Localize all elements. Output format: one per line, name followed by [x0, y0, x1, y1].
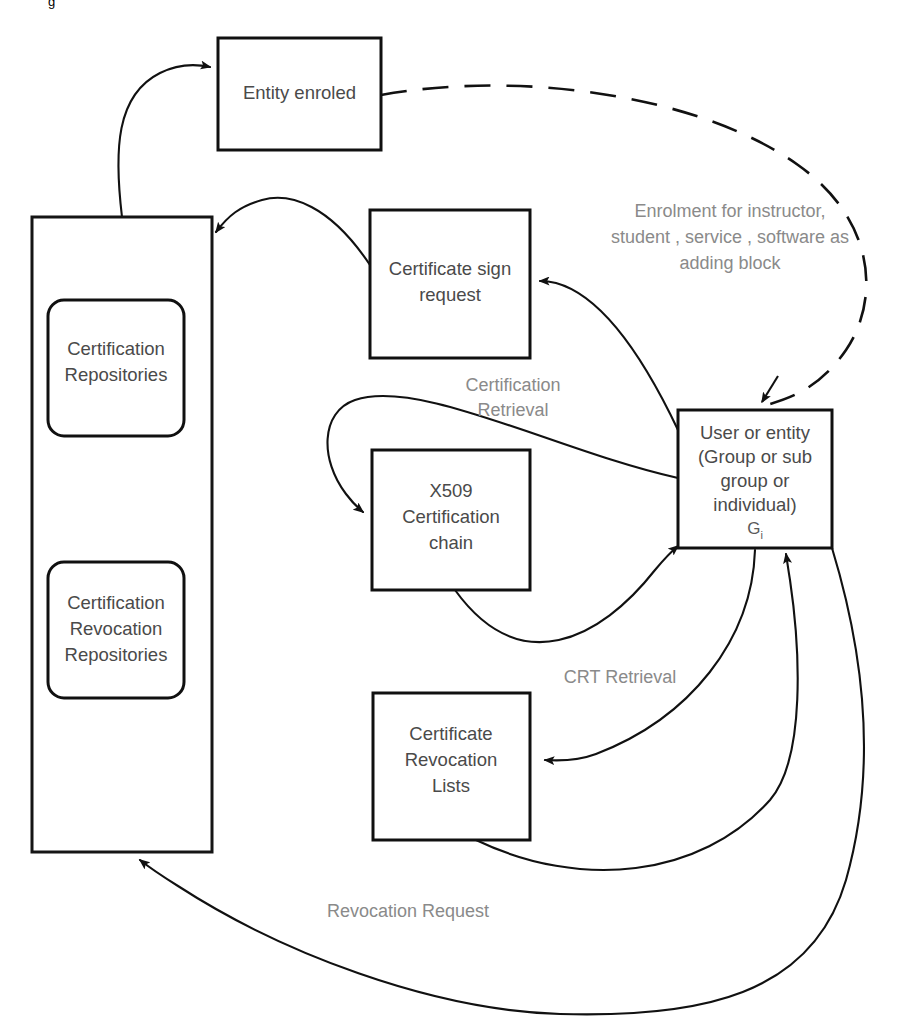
node-certification-revocation-repositories[interactable]: Certification Revocation Repositories	[48, 562, 184, 698]
edge-label-revocation-request-line1: Revocation Request	[327, 901, 489, 921]
edge-label-crt-retrieval-line1: CRT Retrieval	[564, 667, 676, 687]
edge-label-enrolment-line3: adding block	[679, 253, 781, 273]
edge-label-enrolment: Enrolment for instructor, student , serv…	[611, 201, 849, 273]
node-certificate-sign-request-line1: Certificate sign	[389, 258, 511, 279]
node-x509-certification-chain-line1: X509	[429, 480, 472, 501]
edge-user-or-entity-to-certificate-sign-request	[540, 281, 678, 430]
edge-user-or-entity-to-certificate-revocation-lists	[545, 550, 755, 760]
diagram-canvas: g	[0, 0, 909, 1031]
node-certification-repositories[interactable]: Certification Repositories	[48, 300, 184, 436]
node-certificate-revocation-lists-line1: Certificate	[409, 723, 492, 744]
edge-label-certification-retrieval-line2: Retrieval	[477, 400, 548, 420]
node-x509-certification-chain-line2: Certification	[402, 506, 500, 527]
edge-label-certification-retrieval-line1: Certification	[465, 375, 560, 395]
node-certification-revocation-repositories-line2: Revocation	[70, 618, 163, 639]
node-user-or-entity-line4: individual)	[713, 494, 796, 515]
node-user-or-entity-line2: (Group or sub	[698, 446, 812, 467]
node-entity-enroled-label: Entity enroled	[243, 82, 356, 103]
edge-certificate-sign-request-to-repositories	[216, 198, 370, 265]
node-user-or-entity-line1: User or entity	[700, 422, 811, 443]
node-user-or-entity-gi-base: G	[747, 519, 760, 538]
node-certificate-revocation-lists[interactable]: Certificate Revocation Lists	[373, 693, 530, 840]
node-certificate-revocation-lists-line2: Revocation	[405, 749, 498, 770]
node-certificate-sign-request-line2: request	[419, 284, 481, 305]
node-certification-repositories-line1: Certification	[67, 338, 165, 359]
node-certification-repositories-line2: Repositories	[65, 364, 168, 385]
node-user-or-entity-gi-subscript: i	[760, 529, 762, 541]
edge-label-certification-retrieval: Certification Retrieval	[465, 375, 560, 420]
edge-label-crt-retrieval: CRT Retrieval	[564, 667, 676, 687]
node-user-or-entity-line3: group or	[721, 470, 790, 491]
node-certificate-sign-request[interactable]: Certificate sign request	[370, 210, 530, 358]
node-certification-revocation-repositories-line3: Repositories	[65, 644, 168, 665]
edge-label-revocation-request: Revocation Request	[327, 901, 489, 921]
node-certificate-revocation-lists-line3: Lists	[432, 775, 470, 796]
node-entity-enroled[interactable]: Entity enroled	[218, 38, 381, 150]
diagram-svg: Entity enroled Certification Repositorie…	[0, 0, 909, 1031]
edge-label-enrolment-line1: Enrolment for instructor,	[634, 201, 825, 221]
node-certification-revocation-repositories-line1: Certification	[67, 592, 165, 613]
node-x509-certification-chain[interactable]: X509 Certification chain	[372, 450, 530, 590]
node-x509-certification-chain-line3: chain	[429, 532, 473, 553]
edge-repositories-to-entity-enroled	[118, 65, 210, 217]
node-user-or-entity[interactable]: User or entity (Group or sub group or in…	[678, 410, 832, 548]
edge-label-enrolment-line2: student , service , software as	[611, 227, 849, 247]
